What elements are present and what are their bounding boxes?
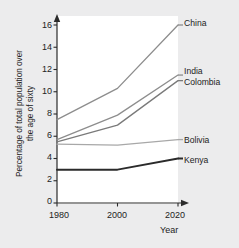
chart-plot-area	[0, 0, 239, 248]
chart-figure: Percentage of total population over the …	[0, 0, 239, 248]
x-axis-arrow	[181, 200, 189, 206]
